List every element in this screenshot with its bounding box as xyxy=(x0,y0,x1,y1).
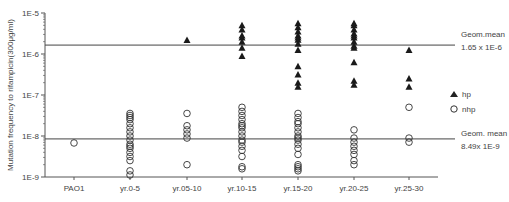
nhp-point xyxy=(239,153,246,160)
nhp-point xyxy=(184,110,191,117)
geom-nhp-label-1: Geom. mean xyxy=(461,129,507,138)
nhp-point xyxy=(351,127,358,134)
geom-nhp-label-2: 8.49x 1E-9 xyxy=(461,142,500,151)
nhp-point xyxy=(406,104,413,111)
hp-point xyxy=(295,71,302,78)
y-tick-label: 1E-6 xyxy=(22,50,39,59)
geom-mean-lines xyxy=(45,45,455,139)
x-tick-label: yr.20-25 xyxy=(340,184,369,193)
legend: hp nhp xyxy=(450,90,476,114)
y-tick-label: 1E-9 xyxy=(22,173,39,182)
x-axis-ticks: PAO1yr.0-5yr.05-10yr.10-15yr.15-20yr.20-… xyxy=(64,177,424,193)
nhp-point xyxy=(127,157,134,164)
hp-point xyxy=(351,59,358,65)
x-tick-label: yr.25-30 xyxy=(395,184,424,193)
nhp-point xyxy=(295,151,302,158)
hp-point xyxy=(406,46,413,53)
nhp-point xyxy=(71,140,78,147)
x-tick-label: yr.0-5 xyxy=(120,184,141,193)
legend-hp-label: hp xyxy=(462,90,471,99)
geom-hp-label-1: Geom.mean xyxy=(461,30,505,39)
data-points xyxy=(71,20,413,179)
x-tick-label: PAO1 xyxy=(64,184,85,193)
hp-point xyxy=(295,46,302,53)
nhp-point xyxy=(239,147,246,154)
y-tick-label: 1E-5 xyxy=(22,9,39,18)
x-tick-label: yr.10-15 xyxy=(228,184,257,193)
nhp-point xyxy=(351,161,358,168)
x-tick-label: yr.05-10 xyxy=(173,184,202,193)
nhp-point xyxy=(351,151,358,158)
hp-point xyxy=(406,75,413,82)
x-tick-label: yr.15-20 xyxy=(284,184,313,193)
nhp-point xyxy=(184,135,191,142)
hp-point xyxy=(406,83,413,90)
y-axis-label: Mutation frequency to rifampicin(300μg/m… xyxy=(6,19,15,171)
hp-point xyxy=(239,53,246,60)
nhp-point xyxy=(295,145,302,152)
scatter-chart: 1E-91E-81E-71E-61E-5 PAO1yr.0-5yr.05-10y… xyxy=(0,0,509,202)
nhp-point xyxy=(406,139,413,146)
y-axis-ticks: 1E-91E-81E-71E-61E-5 xyxy=(22,9,45,182)
hp-point xyxy=(184,37,191,44)
nhp-circle-icon xyxy=(451,106,457,112)
nhp-point xyxy=(184,161,191,168)
legend-nhp-label: nhp xyxy=(462,105,476,114)
y-tick-label: 1E-7 xyxy=(22,91,39,100)
y-tick-label: 1E-8 xyxy=(22,132,39,141)
geom-hp-label-2: 1.65 x 1E-6 xyxy=(461,43,502,52)
hp-triangle-icon xyxy=(450,91,458,97)
hp-point xyxy=(295,63,302,70)
